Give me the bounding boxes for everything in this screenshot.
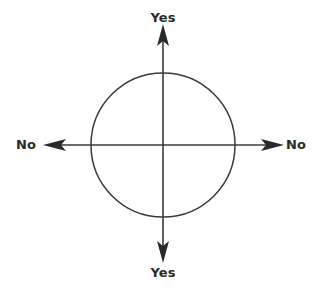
label-top-yes: Yes bbox=[151, 11, 176, 24]
label-left-no: No bbox=[16, 138, 36, 151]
diagram-canvas: Yes Yes No No bbox=[0, 0, 327, 292]
axes-diagram bbox=[0, 0, 327, 292]
label-bottom-yes: Yes bbox=[151, 266, 176, 279]
label-right-no: No bbox=[286, 138, 306, 151]
